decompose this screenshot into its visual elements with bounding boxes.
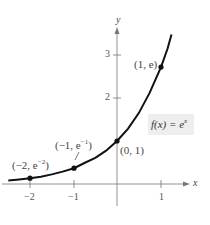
function-label-text: f(x) = e: [151, 118, 184, 130]
x-axis-arrow-icon: [183, 182, 190, 187]
point-0: [114, 138, 119, 143]
y-axis-label: y: [116, 14, 120, 25]
point-neg1: [71, 166, 76, 171]
point-label-neg1-exp: −1: [81, 138, 88, 146]
point-label-neg2: (−2, e−2): [12, 158, 49, 171]
y-tick-label-3: 3: [105, 48, 110, 59]
y-tick-label-2: 2: [105, 91, 110, 102]
point-label-neg1: (−1, e−1): [55, 138, 92, 151]
function-label-exp: x: [184, 117, 187, 125]
y-axis-arrow-icon: [115, 27, 120, 34]
point-label-0: (0, 1): [120, 144, 144, 156]
x-tick-label-neg2: −2: [24, 191, 35, 202]
point-label-neg2-exp: −2: [38, 158, 45, 166]
point-1: [158, 65, 163, 70]
function-label: f(x) = ex: [151, 117, 187, 130]
point-label-1: (1, e): [134, 58, 157, 70]
x-axis-label: x: [193, 177, 197, 188]
point-neg2: [27, 176, 32, 181]
x-tick-label-neg1: −1: [68, 191, 79, 202]
point-label-neg1-base: (−1, e: [55, 139, 81, 151]
point-label-neg2-base: (−2, e: [12, 159, 38, 171]
leader-line: [75, 152, 79, 160]
x-tick-label-1: 1: [159, 191, 164, 202]
